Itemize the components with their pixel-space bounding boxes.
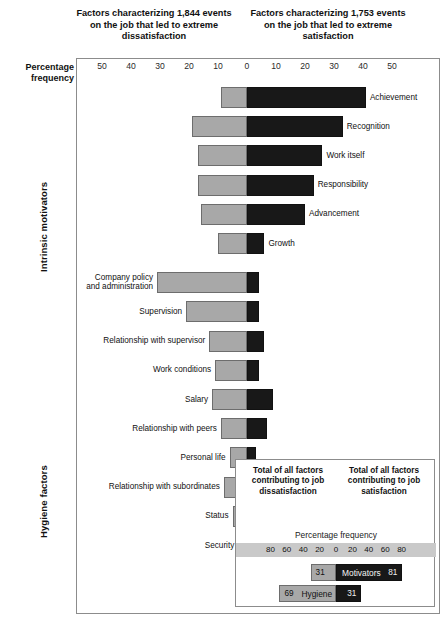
bar-satisfaction — [247, 301, 259, 322]
bar-category-label: Relationship with peers — [57, 424, 217, 434]
bar-row: Achievement — [77, 87, 441, 108]
percentage-frequency-axis-label: Percentage frequency — [2, 62, 74, 84]
x-axis-tick-3: 20 — [177, 61, 201, 71]
bar-dissatisfaction — [212, 389, 247, 410]
bar-dissatisfaction — [201, 204, 247, 225]
bar-category-label: Advancement — [309, 210, 359, 220]
bar-category-label: Personal life — [66, 453, 226, 463]
bar-row: Supervision — [77, 301, 441, 322]
bar-group: Work itself — [198, 145, 323, 166]
bar-satisfaction — [247, 418, 267, 439]
bar-row: Salary — [77, 389, 441, 410]
legend-axis-tick-8: 80 — [393, 545, 411, 554]
heading-dissatisfaction: Factors characterizing 1,844 events on t… — [73, 8, 235, 43]
x-axis-tick-1: 40 — [119, 61, 143, 71]
x-axis-tick-6: 10 — [264, 61, 288, 71]
bar-dissatisfaction — [221, 418, 247, 439]
legend-value-dissatisfaction: 69 — [284, 589, 293, 598]
legend-axis-tick-7: 60 — [376, 545, 394, 554]
bar-satisfaction — [247, 145, 322, 166]
bar-category-label: Security — [74, 541, 234, 551]
legend-bar-dissatisfaction: 31 — [311, 564, 336, 581]
legend-title-dissatisfaction: Total of all factors contributing to job… — [240, 466, 336, 497]
x-axis-tick-5: 0 — [235, 61, 259, 71]
bar-satisfaction — [247, 233, 264, 254]
legend-axis-strip: 80604020020406080 — [236, 543, 436, 557]
legend-value-dissatisfaction: 31 — [316, 568, 325, 577]
legend-scale-caption: Percentage frequency — [236, 530, 436, 540]
legend-axis-tick-4: 0 — [327, 545, 345, 554]
bar-category-label: Growth — [268, 239, 294, 249]
group-label-intrinsic-motivators: Intrinsic motivators — [38, 182, 49, 272]
bar-group: Advancement — [201, 204, 305, 225]
legend-value-satisfaction: 31 — [347, 589, 356, 598]
bar-group: Relationship with peers — [221, 418, 267, 439]
bar-group: Growth — [218, 233, 264, 254]
legend-bar-satisfaction: 31 — [336, 585, 361, 602]
bar-dissatisfaction — [192, 116, 247, 137]
legend-bar-row: 6931Hygiene — [236, 585, 436, 602]
legend-axis-tick-0: 80 — [261, 545, 279, 554]
bar-row: Advancement — [77, 204, 441, 225]
bar-group: Company policy and administration — [157, 272, 259, 293]
bar-category-label: Recognition — [347, 122, 390, 132]
x-axis-tick-0: 50 — [90, 61, 114, 71]
bar-group: Relationship with supervisor — [209, 331, 264, 352]
x-axis-tick-8: 30 — [322, 61, 346, 71]
bar-row: Company policy and administration — [77, 272, 441, 293]
bar-group: Achievement — [221, 87, 366, 108]
bar-group: Responsibility — [198, 175, 314, 196]
x-axis-tick-2: 30 — [148, 61, 172, 71]
bar-category-label: Work itself — [326, 151, 364, 161]
bar-category-label: Achievement — [370, 93, 417, 103]
legend-axis-tick-5: 20 — [343, 545, 361, 554]
bar-satisfaction — [247, 204, 305, 225]
bar-satisfaction — [247, 116, 343, 137]
bar-row: Recognition — [77, 116, 441, 137]
legend-bar-row: 3181Motivators — [236, 564, 436, 581]
bar-dissatisfaction — [198, 175, 247, 196]
bar-dissatisfaction — [218, 233, 247, 254]
group-label-hygiene-factors: Hygiene factors — [38, 465, 49, 538]
bar-satisfaction — [247, 87, 366, 108]
bar-group: Work conditions — [215, 360, 259, 381]
x-axis-tick-4: 10 — [206, 61, 230, 71]
legend-axis-tick-6: 40 — [360, 545, 378, 554]
bar-group: Supervision — [186, 301, 259, 322]
legend-axis-tick-3: 20 — [311, 545, 329, 554]
bar-dissatisfaction — [209, 331, 247, 352]
bar-row: Relationship with supervisor — [77, 331, 441, 352]
bar-row: Relationship with peers — [77, 418, 441, 439]
bar-group: Salary — [212, 389, 273, 410]
bar-row: Work itself — [77, 145, 441, 166]
bar-category-label: Company policy and administration — [0, 273, 153, 292]
chart-plot-area: 504030201001020304050 AchievementRecogni… — [76, 58, 440, 614]
chart-x-axis: 504030201001020304050 — [77, 61, 441, 77]
legend-title-satisfaction: Total of all factors contributing to job… — [336, 466, 432, 497]
bar-category-label: Supervision — [22, 307, 182, 317]
bar-category-label: Relationship with subordinates — [60, 482, 220, 492]
bar-satisfaction — [247, 331, 264, 352]
bar-satisfaction — [247, 389, 273, 410]
bar-satisfaction — [247, 360, 259, 381]
legend-axis-tick-2: 40 — [294, 545, 312, 554]
x-axis-tick-9: 40 — [351, 61, 375, 71]
legend-series-name: Motivators — [342, 568, 381, 578]
bar-group: Recognition — [192, 116, 343, 137]
legend-value-satisfaction: 81 — [388, 568, 397, 577]
bar-category-label: Responsibility — [318, 180, 369, 190]
bar-row: Growth — [77, 233, 441, 254]
bar-category-label: Status — [69, 512, 229, 522]
chart-headings: Factors characterizing 1,844 events on t… — [0, 8, 444, 56]
x-axis-tick-10: 50 — [380, 61, 404, 71]
heading-satisfaction: Factors characterizing 1,753 events on t… — [247, 8, 409, 43]
bar-category-label: Salary — [48, 395, 208, 405]
bar-satisfaction — [247, 272, 259, 293]
bar-dissatisfaction — [221, 87, 247, 108]
bar-row: Responsibility — [77, 175, 441, 196]
bar-row: Work conditions — [77, 360, 441, 381]
bar-dissatisfaction — [198, 145, 247, 166]
bar-category-label: Work conditions — [51, 366, 211, 376]
legend-axis-tick-1: 60 — [278, 545, 296, 554]
legend-series-name: Hygiene — [301, 589, 332, 599]
